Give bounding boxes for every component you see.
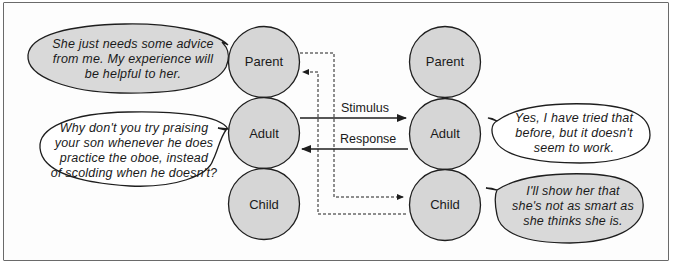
bubble-line: I'll show her that [500,184,646,199]
bubble-line: of scolding when he doesn't? [44,166,224,181]
bubble-line: from me. My experience will [40,52,226,67]
right-parent-label: Parent [409,54,481,69]
bubble-line: Why don't you try praising [44,121,224,136]
right-child-label: Child [409,197,481,212]
stimulus-label: Stimulus [341,101,389,115]
bubble-text-right-child: I'll show her that she's not as smart as… [500,184,646,229]
left-child-label: Child [228,197,300,212]
bubble-line: be helpful to her. [40,67,226,82]
bubble-text-left-adult: Why don't you try praising your son when… [44,121,224,181]
bubble-line: practice the oboe, instead [44,151,224,166]
left-adult-label: Adult [228,126,300,141]
bubble-line: she's not as smart as [500,199,646,214]
bubble-line: She just needs some advice [40,37,226,52]
bubble-text-left-parent: She just needs some advice from me. My e… [40,37,226,82]
left-parent-label: Parent [228,54,300,69]
bubble-line: Yes, I have tried that [500,111,648,126]
bubble-line: she thinks she is. [500,214,646,229]
right-adult-label: Adult [409,126,481,141]
bubble-line: seem to work. [500,141,648,156]
response-label: Response [340,132,396,146]
bubble-line: before, but it doesn't [500,126,648,141]
bubble-text-right-adult: Yes, I have tried that before, but it do… [500,111,648,156]
bubble-line: your son whenever he does [44,136,224,151]
